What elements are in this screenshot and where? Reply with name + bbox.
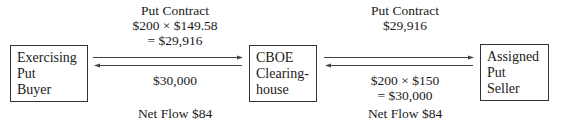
arrow-right-icon	[93, 56, 243, 60]
arrow-left-icon	[325, 64, 473, 68]
arrow-right-icon	[324, 56, 474, 60]
arrows-layer	[0, 0, 563, 127]
arrow-left-icon	[94, 64, 242, 68]
